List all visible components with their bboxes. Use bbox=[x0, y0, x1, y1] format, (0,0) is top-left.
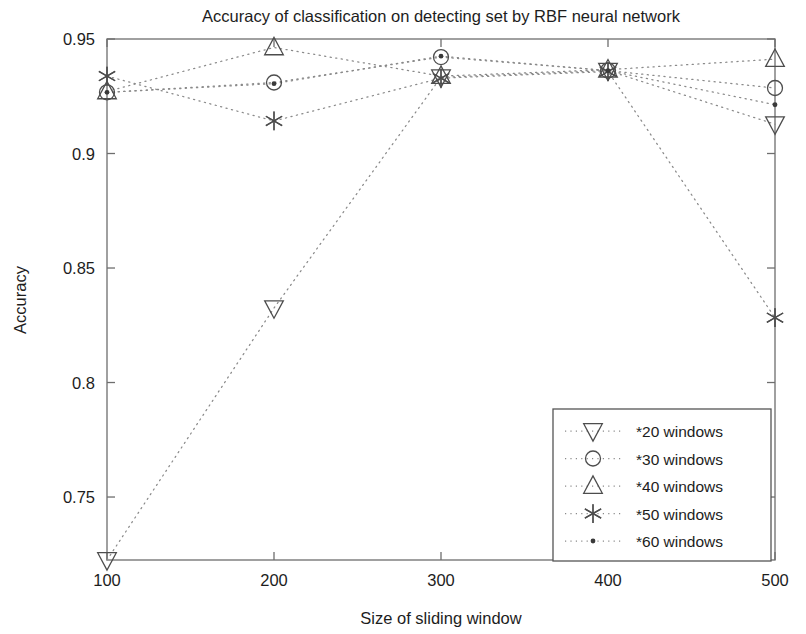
legend-item-label: *40 windows bbox=[636, 478, 723, 495]
chart-title: Accuracy of classification on detecting … bbox=[202, 7, 681, 25]
legend-marker-dot bbox=[591, 539, 596, 544]
x-axis-label: Size of sliding window bbox=[360, 609, 521, 627]
legend-item-label: *50 windows bbox=[636, 506, 723, 523]
data-point bbox=[773, 102, 778, 107]
y-tick-label: 0.75 bbox=[63, 488, 95, 506]
x-tick-label: 400 bbox=[594, 571, 622, 589]
y-tick-label: 0.95 bbox=[63, 30, 95, 48]
data-point bbox=[105, 90, 110, 95]
data-point bbox=[606, 68, 611, 73]
y-axis-label: Accuracy bbox=[11, 265, 29, 334]
x-tick-label: 300 bbox=[427, 571, 455, 589]
x-tick-label: 500 bbox=[761, 571, 789, 589]
data-point bbox=[439, 54, 444, 59]
chart-figure: Accuracy of classification on detecting … bbox=[0, 0, 806, 634]
legend-item-label: *20 windows bbox=[636, 423, 723, 440]
y-tick-label: 0.85 bbox=[63, 259, 95, 277]
y-tick-label: 0.8 bbox=[72, 374, 95, 392]
x-tick-label: 100 bbox=[93, 571, 121, 589]
y-tick-label: 0.9 bbox=[72, 145, 95, 163]
data-point bbox=[272, 81, 277, 86]
chart-legend[interactable]: *20 windows*30 windows*40 windows*50 win… bbox=[553, 409, 771, 561]
legend-item-label: *30 windows bbox=[636, 451, 723, 468]
legend-item-label: *60 windows bbox=[636, 533, 723, 550]
x-tick-label: 200 bbox=[260, 571, 288, 589]
